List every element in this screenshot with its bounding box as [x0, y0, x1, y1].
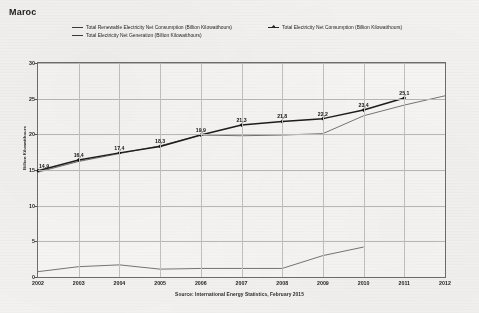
- line-diamond-swatch-icon: [268, 27, 279, 28]
- data-value-label: 21,3: [236, 117, 246, 123]
- grid-line-vertical: [160, 63, 161, 277]
- x-axis-tick-label: 2004: [113, 280, 125, 286]
- y-axis-tick-label: 30: [9, 60, 35, 66]
- x-axis-tick-label: 2002: [32, 280, 44, 286]
- data-value-label: 22,2: [318, 111, 328, 117]
- grid-line-vertical: [201, 63, 202, 277]
- x-axis-tick-label: 2005: [154, 280, 166, 286]
- legend-row-2: Total Electricity Net Generation (Billio…: [72, 32, 442, 39]
- legend-item-net-generation[interactable]: Total Electricity Net Generation (Billio…: [72, 32, 202, 39]
- grid-line-vertical: [119, 63, 120, 277]
- chart-legend: Total Renewable Electricity Net Consumpt…: [72, 24, 442, 39]
- x-axis-tick-label: 2008: [276, 280, 288, 286]
- y-axis-tick-label: 25: [9, 96, 35, 102]
- y-axis-tick-label: 5: [9, 238, 35, 244]
- y-axis-tick-mark: [34, 170, 37, 171]
- data-value-label: 25,1: [399, 90, 409, 96]
- source-note: Source: International Energy Statistics,…: [0, 292, 479, 297]
- grid-line-vertical: [282, 63, 283, 277]
- legend-label: Total Electricity Net Consumption (Billi…: [282, 24, 402, 31]
- grid-line-vertical: [364, 63, 365, 277]
- x-axis-tick-label: 2009: [317, 280, 329, 286]
- plot-area: [37, 62, 446, 278]
- y-axis-tick-mark: [34, 241, 37, 242]
- y-axis-tick-mark: [34, 99, 37, 100]
- grid-line-vertical: [79, 63, 80, 277]
- legend-label: Total Electricity Net Generation (Billio…: [86, 32, 202, 39]
- grid-line-vertical: [242, 63, 243, 277]
- line-swatch-icon: [72, 35, 83, 36]
- data-value-label: 16,4: [74, 152, 84, 158]
- x-axis-tick-label: 2003: [73, 280, 85, 286]
- grid-line-vertical: [323, 63, 324, 277]
- data-value-label: 14,9: [39, 163, 49, 169]
- legend-row-1: Total Renewable Electricity Net Consumpt…: [72, 24, 442, 31]
- y-axis-tick-label: 0: [9, 274, 35, 280]
- y-axis-tick-mark: [34, 63, 37, 64]
- line-swatch-icon: [72, 27, 83, 28]
- data-value-label: 18,3: [155, 138, 165, 144]
- y-axis-tick-label: 10: [9, 203, 35, 209]
- x-axis-tick-label: 2012: [439, 280, 451, 286]
- data-value-label: 23,4: [359, 102, 369, 108]
- data-value-label: 17,4: [114, 145, 124, 151]
- data-value-label: 19,9: [196, 127, 206, 133]
- y-axis-tick-mark: [34, 134, 37, 135]
- y-axis-tick-mark: [34, 277, 37, 278]
- chart-page: Maroc Total Renewable Electricity Net Co…: [0, 0, 479, 313]
- legend-label: Total Renewable Electricity Net Consumpt…: [86, 24, 232, 31]
- x-axis-tick-label: 2010: [358, 280, 370, 286]
- plot-inner: [38, 63, 445, 277]
- y-axis-tick-label: 20: [9, 131, 35, 137]
- data-value-label: 21,8: [277, 113, 287, 119]
- x-axis-tick-label: 2007: [236, 280, 248, 286]
- y-axis-tick-label: 15: [9, 167, 35, 173]
- y-axis-tick-mark: [34, 206, 37, 207]
- x-axis-tick-label: 2011: [399, 280, 411, 286]
- page-title: Maroc: [9, 7, 37, 17]
- x-axis-tick-label: 2006: [195, 280, 207, 286]
- legend-item-renewable-consumption[interactable]: Total Renewable Electricity Net Consumpt…: [72, 24, 268, 31]
- legend-item-net-consumption[interactable]: Total Electricity Net Consumption (Billi…: [268, 24, 402, 31]
